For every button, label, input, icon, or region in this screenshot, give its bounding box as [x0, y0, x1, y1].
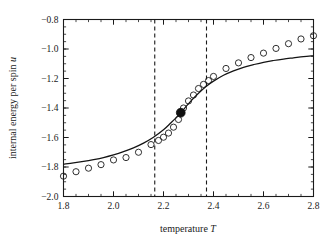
y-tick-label: −1.6 [41, 133, 58, 143]
x-tick-label: 2.0 [108, 201, 120, 211]
y-tick-label: −1.2 [41, 74, 58, 84]
critical-point-marker [176, 108, 185, 117]
x-tick-label: 1.8 [58, 201, 70, 211]
x-axis-title: temperature T [160, 223, 217, 234]
x-tick-label: 2.4 [208, 201, 220, 211]
y-tick-label: −2.0 [41, 192, 58, 202]
figure-container: 1.82.02.22.42.62.8 −2.0−1.8−1.6−1.4−1.2−… [0, 0, 331, 241]
scatter-plot: 1.82.02.22.42.62.8 −2.0−1.8−1.6−1.4−1.2−… [0, 0, 331, 241]
x-tick-label: 2.6 [258, 201, 270, 211]
y-tick-label: −1.4 [41, 103, 58, 113]
x-tick-label: 2.2 [158, 201, 170, 211]
y-tick-label: −1.0 [41, 44, 58, 54]
x-tick-label: 2.8 [308, 201, 320, 211]
critical-point [176, 108, 185, 117]
y-axis-title: internal energy per spin u [7, 57, 18, 159]
y-tick-label: −1.8 [41, 162, 58, 172]
y-tick-label: −0.8 [41, 15, 58, 25]
